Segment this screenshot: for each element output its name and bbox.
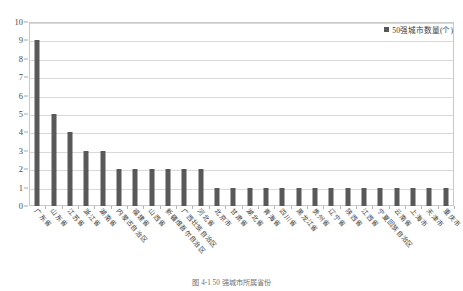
bar-slot [274,22,290,206]
chart-legend: 50强城市数量(个) [384,24,453,35]
bar[interactable] [427,188,432,206]
bar-slot [421,22,437,206]
x-axis-tick-mark [176,206,177,209]
bar-slot [111,22,127,206]
bar-slot [372,22,388,206]
bar-slot [438,22,454,206]
bar[interactable] [411,188,416,206]
y-axis-tick-mark [24,95,28,96]
y-axis-tick-label: 8 [19,55,23,64]
y-axis-tick-label: 4 [19,128,23,137]
y-axis-tick-mark [24,22,28,23]
bar[interactable] [378,188,383,206]
bar-slot [389,22,405,206]
bar[interactable] [345,188,350,206]
bar-slot [356,22,372,206]
y-axis-tick-label: 3 [19,147,23,156]
bar-slot [62,22,78,206]
bar-slot [45,22,61,206]
y-axis-tick-mark [24,40,28,41]
x-axis-tick-mark [291,206,292,209]
y-axis-tick-mark [24,114,28,115]
bar-slot [209,22,225,206]
x-axis-tick-mark [389,206,390,209]
bar[interactable] [313,188,318,206]
bar[interactable] [231,188,236,206]
x-axis-tick-mark [356,206,357,209]
x-axis-tick-mark [242,206,243,209]
bar[interactable] [133,169,138,206]
y-axis-tick-label: 2 [19,165,23,174]
x-axis-labels: 广东省山东省江苏省浙江省湖南省内蒙古自治区福建省山西省新疆维吾尔自治区广西壮族自… [0,206,463,276]
y-axis-tick-label: 1 [19,183,23,192]
bar-slot [29,22,45,206]
x-axis-tick-mark [258,206,259,209]
bar-slot [405,22,421,206]
x-axis-tick-mark [94,206,95,209]
bar-slot [291,22,307,206]
x-axis-tick-mark [372,206,373,209]
legend-label: 50强城市数量(个) [392,24,453,35]
bar[interactable] [296,188,301,206]
chart-figure: 012345678910 广东省山东省江苏省浙江省湖南省内蒙古自治区福建省山西省… [0,0,463,291]
x-axis-tick-mark [307,206,308,209]
x-axis-tick-mark [127,206,128,209]
bar[interactable] [394,188,399,206]
legend-swatch-icon [384,27,389,32]
y-axis-tick-mark [24,132,28,133]
bar[interactable] [198,169,203,206]
bar[interactable] [247,188,252,206]
x-axis-tick-label: 重庆市 [442,208,461,228]
y-axis: 012345678910 [0,22,27,206]
bar[interactable] [214,188,219,206]
x-axis-tick-mark [225,206,226,209]
bar-slot [143,22,159,206]
bar[interactable] [84,151,89,206]
bar-slot [225,22,241,206]
y-axis-tick-label: 10 [15,18,24,27]
x-axis-tick-mark [274,206,275,209]
bar[interactable] [35,40,40,206]
y-axis-tick-label: 7 [19,73,23,82]
figure-caption: 图 4-1 50 强城市所属省份 [0,277,463,291]
x-axis-tick-mark [323,206,324,209]
bar[interactable] [67,132,72,206]
y-axis-tick-mark [24,150,28,151]
bar[interactable] [264,188,269,206]
x-axis-tick-mark [62,206,63,209]
bar-slot [78,22,94,206]
bar-slot [258,22,274,206]
x-axis-tick-mark [405,206,406,209]
bar[interactable] [100,151,105,206]
bar-slot [160,22,176,206]
bar-slot [192,22,208,206]
bar-slot [176,22,192,206]
bar-slot [307,22,323,206]
bar[interactable] [165,169,170,206]
bar[interactable] [116,169,121,206]
x-axis-tick-mark [209,206,210,209]
x-axis-tick-label: 辽宁省 [327,208,346,228]
x-axis-tick-mark [160,206,161,209]
x-axis-tick-mark [111,206,112,209]
y-axis-tick-mark [24,206,28,207]
bar-slot [127,22,143,206]
y-axis-tick-label: 9 [19,36,23,45]
y-axis-tick-mark [24,187,28,188]
y-axis-tick-label: 5 [19,110,23,119]
bar[interactable] [329,188,334,206]
bar[interactable] [51,114,56,206]
bars-layer [29,22,454,206]
x-axis-tick-mark [78,206,79,209]
x-axis-tick-mark [438,206,439,209]
bar[interactable] [182,169,187,206]
bar[interactable] [443,188,448,206]
bar-slot [340,22,356,206]
bar-slot [323,22,339,206]
bar[interactable] [149,169,154,206]
y-axis-tick-mark [24,169,28,170]
bar[interactable] [362,188,367,206]
y-axis-tick-mark [24,58,28,59]
x-axis-tick-mark [192,206,193,209]
bar[interactable] [280,188,285,206]
